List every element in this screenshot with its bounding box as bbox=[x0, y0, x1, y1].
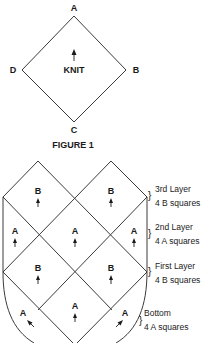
cell-label: A bbox=[131, 226, 138, 236]
knit-direction-arrow-icon bbox=[72, 49, 77, 61]
layer-note-3rd: } 3rd Layer 4 B squares bbox=[148, 184, 200, 208]
layer-note-2nd: } 2nd Layer 4 A squares bbox=[148, 222, 199, 246]
cell-label: A bbox=[20, 308, 27, 318]
brace-icon: } bbox=[148, 228, 152, 239]
arrow-up-icon bbox=[73, 238, 77, 247]
cell-mid-right-a: A bbox=[131, 226, 138, 247]
layer-note-first: } First Layer 4 B squares bbox=[148, 261, 200, 285]
cell-label: A bbox=[72, 226, 79, 236]
layer-note-bottom: } Bottom 4 A squares bbox=[139, 308, 188, 332]
layer-title: 2nd Layer bbox=[155, 222, 193, 232]
arrow-up-icon bbox=[36, 198, 40, 207]
cell-label: B bbox=[108, 263, 115, 273]
cell-low-right-b: B bbox=[108, 263, 115, 284]
vertex-label-right: B bbox=[133, 65, 140, 75]
arrow-up-icon bbox=[109, 275, 113, 284]
cell-label: A bbox=[72, 301, 79, 311]
layer-title: 3rd Layer bbox=[155, 184, 191, 194]
brace-icon: } bbox=[139, 315, 143, 326]
figure-caption: FIGURE 1 bbox=[52, 140, 94, 150]
arrow-up-icon bbox=[73, 313, 77, 322]
arrow-up-icon bbox=[13, 238, 17, 247]
cell-label: B bbox=[35, 186, 42, 196]
cell-top-left-b: B bbox=[35, 186, 42, 207]
cell-bottom-left-a: A bbox=[20, 308, 34, 327]
arrow-up-right-icon bbox=[116, 320, 123, 327]
vertex-label-bottom: C bbox=[71, 125, 78, 135]
diagonal-line bbox=[77, 272, 147, 343]
layer-detail: 4 B squares bbox=[155, 275, 200, 285]
layer-detail: 4 A squares bbox=[144, 322, 188, 332]
brace-icon: } bbox=[148, 190, 152, 201]
diagonal-line bbox=[38, 161, 147, 272]
cell-top-right-b: B bbox=[108, 186, 115, 207]
cell-bottom-right-a: A bbox=[116, 308, 129, 327]
layer-title: First Layer bbox=[155, 261, 195, 271]
assembly-diagram: B B A A bbox=[3, 161, 200, 343]
right-bottom-curve bbox=[116, 272, 147, 343]
arrow-up-icon bbox=[109, 198, 113, 207]
knit-label: KNIT bbox=[64, 65, 85, 75]
diagonal-line bbox=[3, 161, 38, 197]
diagonal-line bbox=[3, 161, 111, 272]
cell-label: B bbox=[35, 263, 42, 273]
cell-bottom-center-a: A bbox=[72, 301, 79, 322]
cell-low-left-b: B bbox=[35, 263, 42, 284]
knitting-diagram: A B C D KNIT FIGURE 1 B bbox=[0, 0, 211, 343]
cell-label: B bbox=[108, 186, 115, 196]
layer-detail: 4 B squares bbox=[155, 198, 200, 208]
cell-mid-left-a: A bbox=[12, 226, 19, 247]
cell-label: A bbox=[122, 308, 129, 318]
cell-label: A bbox=[12, 226, 19, 236]
layer-title: Bottom bbox=[144, 308, 171, 318]
figure-1: A B C D KNIT FIGURE 1 bbox=[10, 3, 140, 150]
left-bottom-curve bbox=[3, 272, 34, 343]
diagonal-line bbox=[3, 197, 112, 310]
layer-detail: 4 A squares bbox=[155, 236, 199, 246]
arrow-up-left-icon bbox=[27, 320, 34, 327]
arrow-up-icon bbox=[36, 275, 40, 284]
vertex-label-left: D bbox=[10, 65, 17, 75]
diagonal-line bbox=[111, 161, 147, 197]
arrow-up-icon bbox=[132, 238, 136, 247]
diagonal-line bbox=[38, 197, 147, 310]
cell-mid-center-a: A bbox=[72, 226, 79, 247]
vertex-label-top: A bbox=[71, 3, 78, 13]
brace-icon: } bbox=[148, 266, 152, 277]
